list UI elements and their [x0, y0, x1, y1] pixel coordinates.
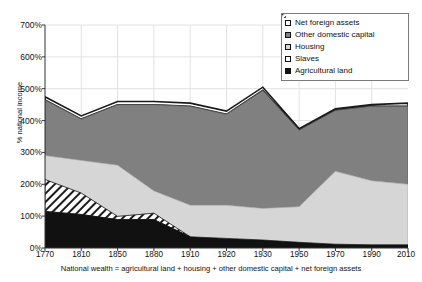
x-tick-label: 1910: [181, 250, 199, 259]
legend-swatch-icon: [285, 20, 291, 26]
legend-label: Housing: [295, 41, 324, 53]
x-tick-label: 2010: [397, 250, 415, 259]
legend-item-housing[interactable]: Housing: [285, 41, 404, 53]
legend-label: Slaves: [295, 53, 319, 65]
x-tick-label: 1950: [290, 250, 308, 259]
x-tick-label: 1880: [145, 250, 163, 259]
legend-label: Net foreign assets: [295, 17, 359, 29]
x-axis-caption: National wealth = agricultural land + ho…: [0, 264, 422, 273]
chart-container: % national income 0% 100% 200% 300% 400%…: [0, 0, 422, 282]
x-tick-label: 1930: [254, 250, 272, 259]
x-tick-label: 1990: [363, 250, 381, 259]
legend-label: Agricultural land: [295, 65, 352, 77]
x-tick-label: 1970: [326, 250, 344, 259]
legend-label: Other domestic capital: [295, 29, 375, 41]
stacked-areas: [45, 87, 408, 248]
x-tick-label: 1920: [217, 250, 235, 259]
legend-swatch-icon: [285, 68, 291, 74]
x-tick-label: 1770: [36, 250, 54, 259]
legend-item-agricultural-land[interactable]: Agricultural land: [285, 65, 404, 77]
legend-item-slaves[interactable]: Slaves: [285, 53, 404, 65]
legend-swatch-icon: [285, 56, 291, 62]
legend-swatch-icon: [285, 32, 291, 38]
chart-legend: Net foreign assets Other domestic capita…: [281, 13, 409, 81]
legend-swatch-icon: [285, 44, 291, 50]
legend-item-other-domestic-capital[interactable]: Other domestic capital: [285, 29, 404, 41]
x-tick-label: 1850: [108, 250, 126, 259]
x-tick-label: 1810: [72, 250, 90, 259]
legend-item-net-foreign-assets[interactable]: Net foreign assets: [285, 17, 404, 29]
